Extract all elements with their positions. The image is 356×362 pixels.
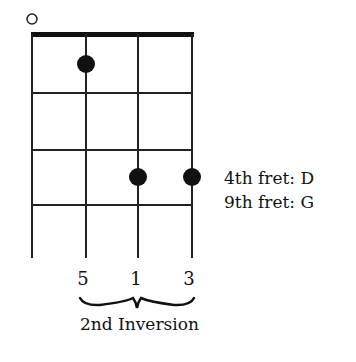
brace-icon	[80, 298, 194, 308]
frets	[32, 93, 192, 205]
interval-label: 5	[73, 268, 93, 289]
strings	[32, 34, 192, 258]
finger-dot	[77, 55, 95, 73]
interval-label: 1	[126, 268, 146, 289]
finger-dot	[129, 168, 147, 186]
open-string-icon	[27, 14, 37, 24]
interval-label: 3	[179, 268, 199, 289]
fret-annotation-2: 9th fret: G	[224, 192, 314, 212]
fret-annotation-1: 4th fret: D	[224, 168, 314, 188]
inversion-label: 2nd Inversion	[80, 314, 196, 334]
nut	[31, 32, 194, 37]
finger-dot	[183, 168, 201, 186]
